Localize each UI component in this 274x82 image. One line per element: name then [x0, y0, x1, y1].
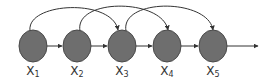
- label-x1-text: X: [26, 64, 34, 78]
- label-x2: X2: [62, 64, 92, 79]
- label-x4-subscript: 4: [169, 70, 174, 79]
- edge-x3-x5: [126, 6, 213, 31]
- label-x1: X1: [18, 64, 48, 79]
- node-x3: [108, 30, 136, 62]
- node-x4: [153, 30, 181, 62]
- node-x2: [63, 30, 91, 62]
- node-x5: [199, 30, 227, 62]
- label-x2-subscript: 2: [79, 70, 84, 79]
- label-x3-subscript: 3: [124, 70, 129, 79]
- node-x1: [19, 30, 47, 62]
- label-x4-text: X: [160, 64, 168, 78]
- label-x3: X3: [107, 64, 137, 79]
- label-x5-text: X: [206, 64, 214, 78]
- label-x5-subscript: 5: [215, 70, 220, 79]
- label-x3-text: X: [115, 64, 123, 78]
- label-x5: X5: [198, 64, 228, 79]
- label-x4: X4: [152, 64, 182, 79]
- edge-x1-x3: [30, 8, 118, 31]
- label-x1-subscript: 1: [35, 70, 40, 79]
- label-x2-text: X: [70, 64, 78, 78]
